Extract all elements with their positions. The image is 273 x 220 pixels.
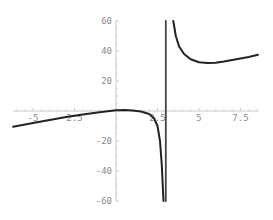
y-tick-label: -20 [96, 136, 112, 146]
y-tick-label: 40 [101, 46, 112, 56]
y-tick-label: 60 [101, 16, 112, 26]
series-line-2 [173, 21, 258, 63]
x-tick-label: 5 [196, 113, 201, 123]
y-tick-label: -40 [96, 166, 112, 176]
x-tick-label: 2.5 [149, 113, 165, 123]
plot-area: -52.52.557.5 604020-20-40-60 [0, 0, 273, 220]
series-line-1 [13, 110, 163, 201]
y-tick-label: 20 [101, 76, 112, 86]
x-tick-label: 7.5 [232, 113, 248, 123]
y-tick-label: -60 [96, 196, 112, 206]
